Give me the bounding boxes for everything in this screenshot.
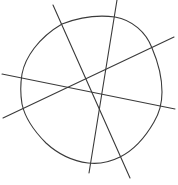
diagram-canvas [0, 0, 178, 185]
background [0, 0, 178, 185]
